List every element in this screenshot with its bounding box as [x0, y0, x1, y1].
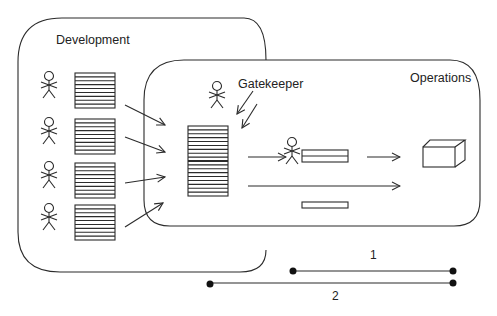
development-label: Development — [56, 33, 130, 47]
developer-document-stack-icon — [75, 73, 115, 108]
developer-document-stack-icon — [75, 205, 115, 240]
operator-stick-figure-icon — [284, 138, 300, 165]
arrow-icon — [237, 91, 253, 114]
gatekeeper-stick-figure-icon — [209, 82, 225, 109]
development-boundary-bottom — [18, 62, 266, 272]
devops-diagram: Development Operations Gatekeeper — [0, 0, 497, 316]
developer-stick-figure-icon — [41, 162, 57, 189]
developer-stick-figure-icon — [41, 204, 57, 231]
arrow-icon — [125, 177, 165, 183]
developer-document-stack-icon — [75, 119, 115, 154]
arrow-icon — [125, 137, 165, 152]
timeline-2 — [207, 280, 457, 288]
timeline-1 — [290, 268, 457, 275]
small-package-icon — [302, 202, 348, 208]
developer-document-stack-icon — [75, 163, 115, 198]
box-3d-icon — [423, 140, 465, 167]
developer-stick-figure-icon — [41, 118, 57, 145]
timeline-2-label: 2 — [332, 289, 339, 303]
arrow-icon — [242, 104, 257, 128]
arrow-icon — [125, 105, 165, 125]
timeline-1-label: 1 — [370, 248, 377, 262]
developer-stick-figure-icon — [41, 72, 57, 99]
operations-label: Operations — [410, 71, 471, 85]
gatekeeper-label: Gatekeeper — [238, 77, 303, 91]
central-document-stack-icon — [188, 126, 228, 196]
